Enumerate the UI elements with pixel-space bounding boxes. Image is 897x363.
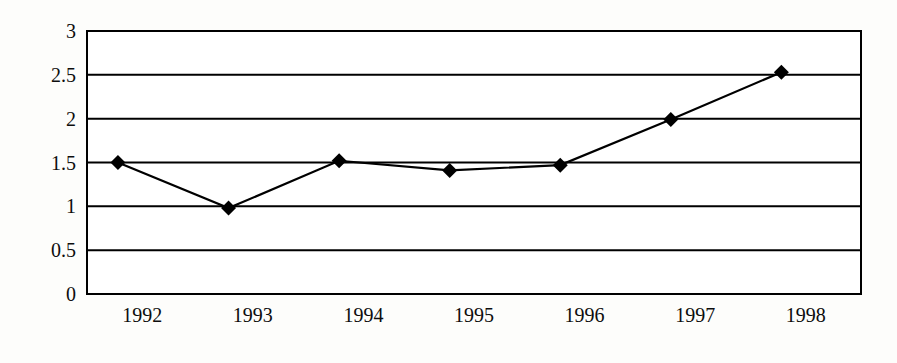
x-tick-label: 1992 — [122, 305, 162, 325]
x-tick-label: 1996 — [565, 305, 605, 325]
y-tick-label: 2 — [66, 109, 76, 129]
y-tick-label: 2.5 — [51, 65, 76, 85]
x-tick-label: 1997 — [675, 305, 715, 325]
x-tick-label: 1998 — [786, 305, 826, 325]
x-tick-label: 1994 — [343, 305, 383, 325]
y-tick-label: 3 — [66, 21, 76, 41]
y-tick-label: 1.5 — [51, 153, 76, 173]
y-tick-label: 1 — [66, 196, 76, 216]
y-tick-label: 0.5 — [51, 240, 76, 260]
x-tick-label: 1995 — [454, 305, 494, 325]
y-tick-label: 0 — [66, 284, 76, 304]
x-tick-label: 1993 — [233, 305, 273, 325]
chart-figure: 00.511.522.53 19921993199419951996199719… — [0, 0, 897, 363]
